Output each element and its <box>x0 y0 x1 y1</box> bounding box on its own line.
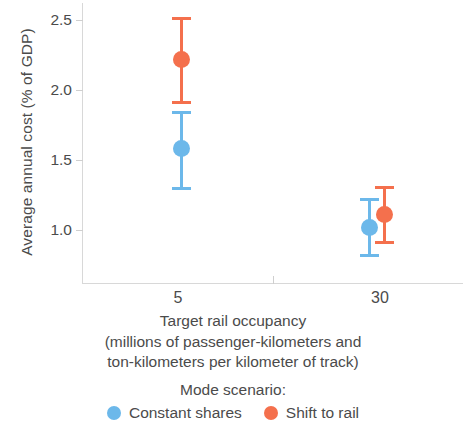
legend-swatch-circle-icon <box>107 406 121 420</box>
errorbar-cap-lower <box>172 101 191 104</box>
x-tick-mark-mid <box>273 276 274 284</box>
y-tick-mark-1.0 <box>76 230 83 231</box>
data-point-shift-to-rail-5 <box>173 51 190 68</box>
chart-figure: Average annual cost (% of GDP) 2.5 2.0 1… <box>0 0 466 433</box>
x-tick-label-30: 30 <box>340 288 420 307</box>
x-axis-title: Target rail occupancy (millions of passe… <box>0 311 466 373</box>
y-tick-label-2.0: 2.0 <box>12 82 72 98</box>
data-point-constant-shares-5 <box>173 140 190 157</box>
y-tick-label-1.5: 1.5 <box>12 152 72 168</box>
legend-items: Constant shares Shift to rail <box>0 404 466 422</box>
errorbar-cap-upper <box>375 186 394 189</box>
legend-title: Mode scenario: <box>0 381 466 399</box>
legend-label-constant-shares: Constant shares <box>129 404 242 422</box>
legend-label-shift-to-rail: Shift to rail <box>286 404 359 422</box>
y-tick-mark-2.0 <box>76 90 83 91</box>
legend-entry-constant-shares[interactable]: Constant shares <box>107 404 242 422</box>
data-point-shift-to-rail-30 <box>376 206 393 223</box>
y-tick-label-2.5: 2.5 <box>12 12 72 28</box>
y-tick-label-1.0: 1.0 <box>12 222 72 238</box>
y-axis-line <box>82 3 83 284</box>
data-point-constant-shares-30 <box>361 219 378 236</box>
legend-entry-shift-to-rail[interactable]: Shift to rail <box>264 404 359 422</box>
x-axis-title-line-2: (millions of passenger-kilometers and <box>0 332 466 353</box>
y-axis-title: Average annual cost (% of GDP) <box>18 2 36 282</box>
x-axis-title-line-3: ton-kilometers per kilometer of track) <box>0 352 466 373</box>
x-axis-title-line-1: Target rail occupancy <box>0 311 466 332</box>
errorbar-cap-lower <box>375 241 394 244</box>
y-tick-mark-1.5 <box>76 160 83 161</box>
legend-swatch-circle-icon <box>264 406 278 420</box>
errorbar-cap-upper <box>172 111 191 114</box>
errorbar-cap-upper <box>360 198 379 201</box>
legend: Mode scenario: Constant shares Shift to … <box>0 381 466 422</box>
errorbar-cap-upper <box>172 17 191 20</box>
y-tick-mark-2.5 <box>76 20 83 21</box>
errorbar-cap-lower <box>360 254 379 257</box>
x-tick-label-5: 5 <box>138 288 218 307</box>
errorbar-cap-lower <box>172 187 191 190</box>
